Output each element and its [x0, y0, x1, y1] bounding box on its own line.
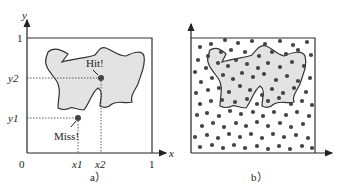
monte-carlo-figure: Hit! Miss! y x 0 x1 x2 1 y1 y2 1 a）	[0, 0, 339, 188]
origin-label: 0	[19, 158, 25, 170]
x-axis-label: x	[168, 147, 174, 159]
y-tick-y2: y2	[7, 72, 19, 84]
miss-point	[75, 115, 81, 121]
hit-point	[98, 75, 104, 81]
x-tick-x2: x2	[94, 158, 106, 170]
x-tick-x1: x1	[71, 158, 82, 170]
caption-a: a）	[90, 171, 106, 183]
panel-a: Hit! Miss! y x 0 x1 x2 1 y1 y2 1 a）	[7, 9, 174, 183]
miss-label: Miss!	[54, 130, 79, 142]
y-tick-y1: y1	[7, 112, 18, 124]
y-axis-label: y	[21, 9, 27, 21]
y-tick-1: 1	[17, 32, 23, 44]
miss-arrow	[71, 121, 76, 127]
panel-b: b）	[191, 24, 332, 183]
hit-label: Hit!	[86, 57, 104, 69]
caption-b: b）	[251, 171, 268, 183]
x-tick-1: 1	[149, 158, 155, 170]
